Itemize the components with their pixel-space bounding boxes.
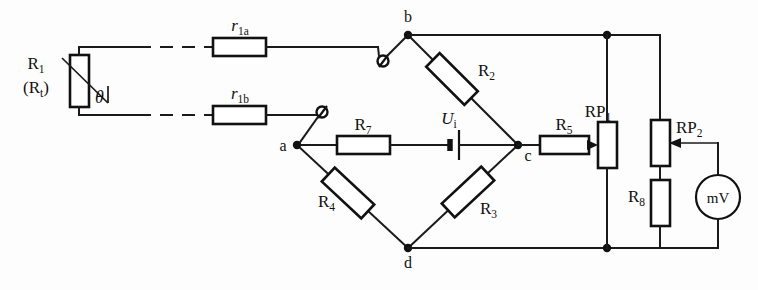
- circuit-diagram: R1 (Rt) θ r1a r1b b a c d R2 R3: [0, 0, 758, 290]
- r2-body: [426, 53, 478, 105]
- r8-body: [651, 180, 670, 226]
- schematic-canvas: R1 (Rt) θ r1a r1b b a c d R2 R3: [0, 0, 758, 290]
- r1a-label: r1a: [231, 16, 248, 37]
- r7-label: R7: [354, 115, 371, 136]
- rp2-body: [651, 120, 670, 166]
- source-label: Ui: [441, 109, 456, 130]
- r2-label: R2: [478, 61, 495, 82]
- r8-label: R8: [628, 187, 645, 208]
- meter-label: mV: [707, 190, 730, 206]
- node-label-d: d: [404, 254, 412, 271]
- wiper-arrow-rp1: [587, 140, 598, 150]
- wire-terminal-lower-to-a: [298, 117, 318, 145]
- rp1-body: [598, 122, 617, 168]
- wire-r1a-to-terminal: [378, 47, 379, 56]
- thermistor-label-r1: R1: [27, 54, 44, 75]
- r5-body: [540, 136, 589, 154]
- node-label-c: c: [524, 147, 531, 164]
- rp2-label: RP2: [676, 118, 703, 139]
- r1a-body: [213, 38, 266, 56]
- r3-label: R3: [480, 199, 497, 220]
- thermistor-label-rt: (Rt): [23, 78, 49, 99]
- node-label-b: b: [404, 8, 412, 25]
- theta-label: θ: [95, 87, 104, 107]
- r2-component: [426, 53, 478, 105]
- r7-body: [337, 136, 390, 154]
- r4-label: R4: [318, 192, 335, 213]
- r1b-body: [213, 106, 266, 124]
- node-label-a: a: [279, 137, 286, 154]
- wire-terminal-upper-to-b: [387, 35, 408, 56]
- r5-label: R5: [555, 115, 572, 136]
- r1b-label: r1b: [231, 84, 249, 105]
- node-dot-a: [293, 141, 301, 149]
